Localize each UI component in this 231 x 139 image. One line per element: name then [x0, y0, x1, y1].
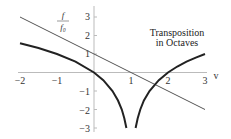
x-tick-label: 1	[129, 75, 134, 86]
svg-text:f₀: f₀	[60, 22, 66, 32]
annotation-line-2: in Octaves	[156, 37, 199, 48]
y-tick-label: −1	[79, 86, 90, 97]
y-tick-label: −3	[79, 123, 90, 134]
log-curve-right-branch	[136, 54, 205, 128]
x-tick-label: 3	[203, 75, 208, 86]
x-axis-label: v	[214, 70, 219, 81]
x-tick-label: 2	[166, 75, 171, 86]
svg-text:f: f	[62, 10, 66, 20]
x-tick-label: −1	[52, 75, 63, 86]
y-tick-label: −2	[79, 105, 90, 116]
y-tick-label: 3	[85, 11, 90, 22]
y-tick-label: 2	[85, 30, 90, 41]
y-axis-label: f f₀	[57, 10, 69, 32]
chart: −2 −1 1 2 3 v 3 2 1 −1 −2 −3 f f₀ Transp…	[0, 0, 231, 139]
log-curve-left-branch	[20, 43, 126, 128]
x-tick-label: −2	[15, 75, 26, 86]
